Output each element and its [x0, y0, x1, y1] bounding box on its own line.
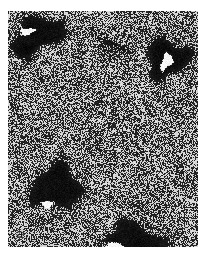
micrograph-grain-canvas: [8, 11, 198, 247]
figure-root: a: [0, 0, 208, 259]
micrograph-panel: [8, 11, 198, 247]
